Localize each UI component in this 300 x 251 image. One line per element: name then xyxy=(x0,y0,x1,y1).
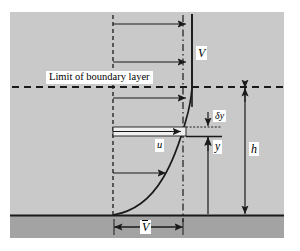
y-distance-label: y xyxy=(213,140,222,154)
boundary-layer-limit-label: Limit of boundary layer xyxy=(46,71,153,84)
fluid-region xyxy=(10,12,284,215)
mean-velocity-label: V xyxy=(140,220,151,234)
local-velocity-label: u xyxy=(155,139,164,152)
h-depth-label: h xyxy=(249,142,259,156)
boundary-layer-figure: Limit of boundary layer V δy u y h V xyxy=(0,0,300,251)
boundary-layer-diagram xyxy=(0,0,300,251)
free-stream-velocity-label: V xyxy=(196,46,207,60)
delta-y-label: δy xyxy=(213,110,226,122)
mean-velocity-overbar-glyph: V xyxy=(142,221,149,233)
